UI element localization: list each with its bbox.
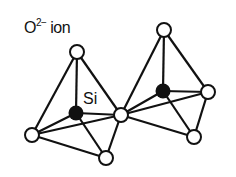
ion-word: ion [46, 19, 70, 36]
oxygen-atom [70, 45, 84, 59]
oxygen-atom [99, 151, 113, 165]
oxygen-atom [114, 108, 128, 122]
bonds [32, 30, 208, 158]
oxygen-atom [201, 85, 215, 99]
bond-line [32, 135, 106, 158]
oxygen-atom [187, 130, 201, 144]
oxygen-atom [25, 128, 39, 142]
silicon-label: Si [83, 90, 97, 108]
bond-line [121, 115, 194, 137]
oxygen-ion-label: O2− ion [24, 18, 70, 37]
ion-charge: 2− [36, 17, 46, 28]
silicon-atom [156, 84, 171, 99]
bond-line [76, 52, 77, 113]
ion-symbol: O [24, 19, 36, 36]
silicon-atom [69, 106, 84, 121]
bond-line [164, 30, 208, 92]
oxygen-atom [157, 23, 171, 37]
bond-line [163, 30, 164, 91]
